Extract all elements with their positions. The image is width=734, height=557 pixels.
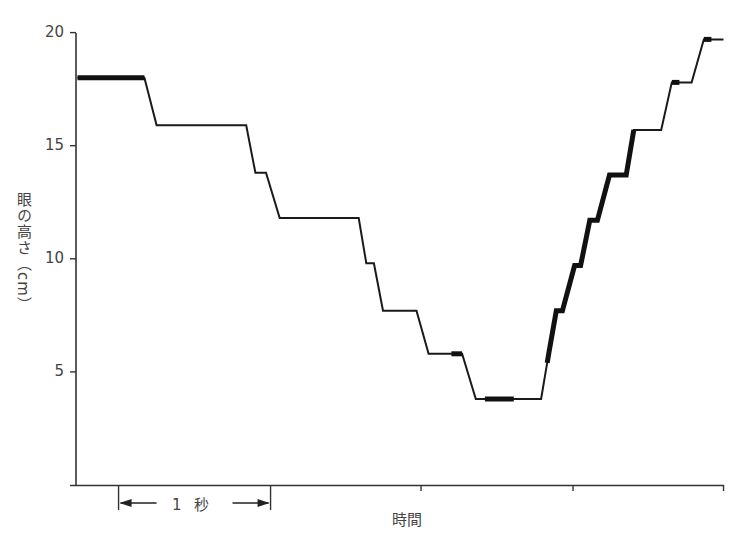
y-tick-label: 5 xyxy=(24,362,64,380)
y-tick-label: 20 xyxy=(24,23,64,41)
y-axis-label: 眼の高さ（cm） xyxy=(14,192,34,313)
y-tick-label: 15 xyxy=(24,136,64,154)
series-line xyxy=(78,39,724,399)
arrowhead-left-icon xyxy=(120,499,132,507)
x-axis-label: 時間 xyxy=(392,508,422,529)
arrowhead-right-icon xyxy=(258,499,270,507)
thick-segment xyxy=(547,130,634,363)
axes xyxy=(70,33,724,486)
thick-segments xyxy=(78,39,712,399)
eye-height-chart xyxy=(0,0,734,557)
scale-bar-label: 1 秒 xyxy=(172,493,213,514)
y-ticks xyxy=(70,33,76,372)
